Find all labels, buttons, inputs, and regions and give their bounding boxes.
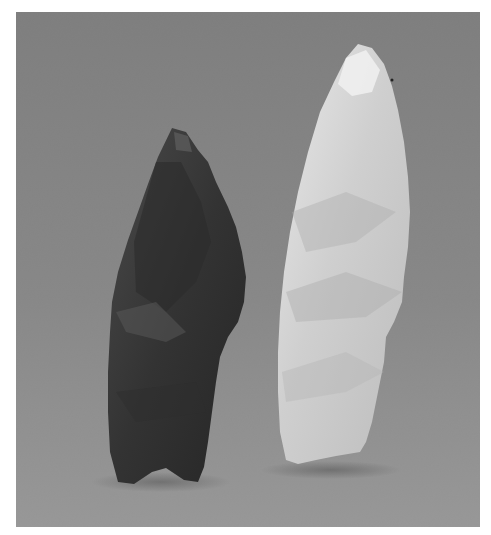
- artifact-photograph: [16, 12, 480, 527]
